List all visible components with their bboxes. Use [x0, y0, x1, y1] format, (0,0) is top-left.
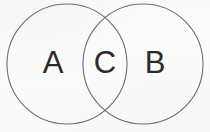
venn-label-b: B — [145, 45, 166, 80]
venn-diagram-canvas: A C B — [0, 0, 210, 132]
venn-diagram-figure: A C B — [0, 0, 210, 132]
venn-label-a: A — [43, 45, 64, 80]
venn-label-c: C — [94, 45, 116, 80]
